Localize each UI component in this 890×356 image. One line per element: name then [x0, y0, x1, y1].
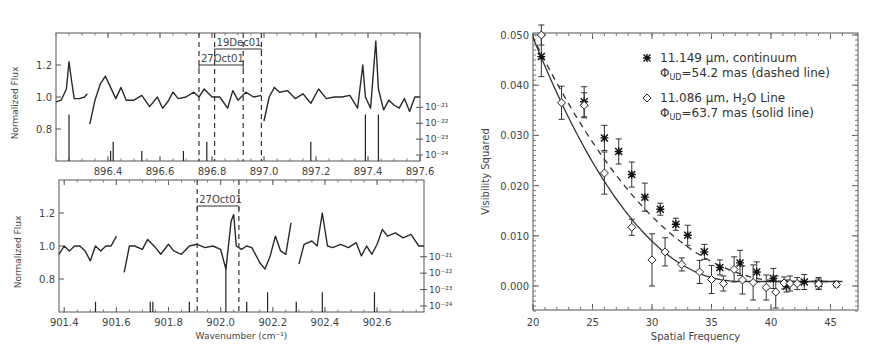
y-axis-label: Normalized Flux: [13, 215, 23, 288]
data-point: [600, 125, 608, 150]
asterisk-marker: [628, 171, 636, 179]
y-axis-label: Visibility Squared: [480, 128, 491, 215]
right-axis-label: 10⁻²⁴: [425, 150, 449, 160]
right-axis-label: 10⁻²³: [425, 134, 449, 144]
legend-item-1-line2: ΦUD=54.2 mas (dashed line): [660, 66, 830, 82]
y-tick-label: 0.010: [500, 231, 529, 242]
x-axis-label: Wavenumber (cm⁻¹): [196, 331, 288, 341]
diamond-marker: [628, 223, 636, 231]
data-point: [716, 260, 724, 275]
data-point: [656, 203, 664, 215]
x-tick-label: 897.4: [354, 166, 383, 177]
right-axis-label: 10⁻²⁴: [429, 301, 453, 311]
data-point: [672, 218, 680, 230]
legend-item-2-line1: 11.086 μm, H2O Line: [660, 91, 785, 107]
y-tick-label: 0.8: [39, 274, 55, 285]
diamond-marker: [558, 99, 566, 107]
y-tick-label: 1.2: [39, 208, 55, 219]
x-tick-label: 30: [646, 317, 659, 328]
spectrum-line: [264, 41, 420, 121]
right-axis-label: 10⁻²¹: [429, 252, 453, 262]
diamond-marker: [678, 260, 686, 268]
x-tick-label: 902.4: [311, 317, 340, 328]
x-tick-label: 897.6: [406, 166, 435, 177]
asterisk-marker: [615, 147, 623, 155]
x-tick-label: 901.6: [102, 317, 131, 328]
legend-item-2-line2: ΦUD=63.7 mas (solid line): [660, 106, 814, 122]
y-tick-label: 0.050: [500, 30, 529, 41]
y-tick-label: 1.2: [36, 60, 52, 71]
data-point: [661, 238, 669, 266]
spectrum-line: [59, 236, 116, 261]
y-axis-label: Normalized Flux: [10, 66, 20, 139]
diamond-marker: [738, 276, 746, 284]
spectrum-line: [90, 76, 262, 124]
y-tick-label: 0.000: [500, 281, 529, 292]
legend-item-1-line1: 11.149 μm, continuum: [660, 51, 797, 65]
data-point: [684, 225, 692, 245]
data-point: [696, 260, 704, 283]
x-axis-label: Spatial Frequency: [651, 331, 740, 342]
x-tick-label: 40: [765, 317, 778, 328]
spectrum-line: [299, 213, 424, 264]
right-axis-label: 10⁻²¹: [425, 102, 449, 112]
asterisk-marker: [753, 268, 761, 276]
diamond-marker: [749, 278, 757, 286]
y-tick-label: 0.020: [500, 181, 529, 192]
asterisk-marker: [656, 205, 664, 213]
x-tick-label: 902.6: [363, 317, 392, 328]
data-point: [558, 86, 566, 119]
data-point: [628, 162, 636, 187]
data-point: [628, 219, 636, 235]
diamond-marker: [537, 31, 545, 39]
x-tick-label: 897.0: [250, 166, 279, 177]
data-point: [678, 258, 686, 271]
data-point: [800, 274, 808, 289]
asterisk-marker: [641, 193, 649, 201]
asterisk-marker: [672, 220, 680, 228]
legend: 11.149 μm, continuumΦUD=54.2 mas (dashed…: [643, 51, 830, 122]
x-tick-label: 896.8: [198, 166, 227, 177]
y-tick-label: 0.8: [36, 124, 52, 135]
diamond-marker: [772, 288, 780, 296]
visibility-panel: 2025303540450.0000.0100.0200.0300.0400.0…: [480, 23, 858, 343]
data-point: [615, 139, 623, 164]
x-tick-label: 902.0: [206, 317, 235, 328]
legend-diamond-icon: [643, 94, 651, 102]
y-tick-label: 1.0: [39, 241, 55, 252]
x-tick-label: 901.8: [154, 317, 183, 328]
data-point: [580, 93, 588, 118]
data-point: [641, 183, 649, 211]
x-tick-label: 35: [705, 317, 718, 328]
data-point: [648, 234, 656, 286]
x-tick-label: 901.4: [50, 317, 79, 328]
data-point: [708, 265, 716, 293]
right-axis-label: 10⁻²²: [429, 268, 453, 278]
date-label: 19Dec01: [217, 37, 262, 48]
data-point: [700, 244, 708, 259]
spectrum-line: [56, 62, 87, 102]
right-axis-label: 10⁻²²: [425, 118, 449, 128]
y-tick-label: 0.040: [500, 80, 529, 91]
data-point: [762, 275, 770, 300]
asterisk-marker: [716, 263, 724, 271]
diamond-marker: [762, 284, 770, 292]
spectrum-line: [124, 215, 291, 273]
asterisk-marker: [537, 53, 545, 61]
data-point: [832, 280, 840, 288]
y-tick-label: 0.030: [500, 130, 529, 141]
top-spectrum-panel: 896.4896.6896.8897.0897.2897.4897.60.81.…: [10, 33, 449, 177]
y-tick-label: 1.0: [36, 92, 52, 103]
x-tick-label: 902.2: [258, 317, 287, 328]
x-tick-label: 20: [527, 317, 540, 328]
diamond-marker: [648, 256, 656, 264]
x-tick-label: 896.6: [146, 166, 175, 177]
x-tick-label: 896.4: [94, 166, 123, 177]
diamond-marker: [580, 101, 588, 109]
date-bracket: [197, 206, 239, 210]
date-label: 27Oct01: [199, 194, 242, 205]
x-tick-label: 897.2: [302, 166, 331, 177]
diamond-marker: [793, 279, 801, 287]
data-point: [719, 276, 727, 291]
asterisk-marker: [800, 278, 808, 286]
